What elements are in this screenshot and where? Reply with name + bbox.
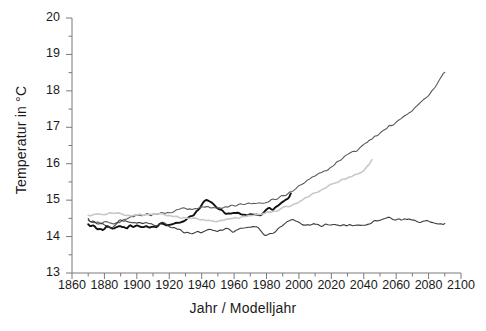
temperature-projection-chart: Temperatur in °C Jahr / Modelljahr 13141…: [0, 0, 486, 331]
y-tick-label: 16: [32, 156, 60, 170]
y-tick-label: 14: [32, 229, 60, 243]
y-tick-label: 18: [32, 83, 60, 97]
y-tick-label: 15: [32, 192, 60, 206]
y-tick-label: 17: [32, 119, 60, 133]
y-tick-label: 13: [32, 265, 60, 279]
x-tick-label: 2100: [441, 278, 481, 292]
series-line: [88, 193, 291, 230]
y-tick-label: 20: [32, 10, 60, 24]
y-tick-label: 19: [32, 46, 60, 60]
series-line: [88, 72, 445, 224]
